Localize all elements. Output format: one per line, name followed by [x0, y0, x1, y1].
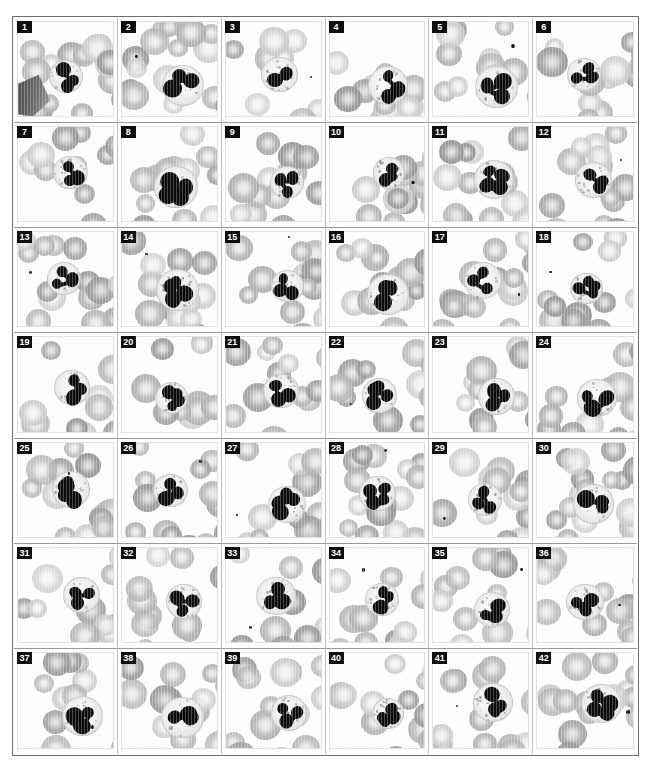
- micrograph-panel[interactable]: 33: [222, 544, 326, 649]
- micrograph-image: [432, 231, 529, 327]
- micrograph-image: [17, 126, 114, 222]
- erythrocyte: [601, 442, 626, 462]
- micrograph-panel[interactable]: 3: [222, 18, 326, 123]
- erythrocyte: [539, 193, 565, 217]
- micrograph-panel[interactable]: 6: [533, 18, 637, 123]
- erythrocyte: [499, 318, 521, 328]
- panel-number-label: 19: [17, 336, 32, 348]
- figure-page: 1234567891011121314151617181920212223242…: [0, 0, 651, 779]
- blood-smear-field: [330, 127, 425, 221]
- cytoplasmic-granule: [480, 710, 481, 711]
- micrograph-panel[interactable]: 42: [533, 649, 637, 754]
- panel-number-label: 30: [536, 442, 551, 454]
- erythrocyte: [472, 547, 498, 571]
- micrograph-panel[interactable]: 16: [326, 228, 430, 333]
- erythrocyte: [132, 215, 155, 222]
- micrograph-panel[interactable]: 29: [429, 439, 533, 544]
- micrograph-panel[interactable]: 9: [222, 123, 326, 228]
- erythrocyte: [136, 194, 155, 212]
- panel-number-label: 5: [432, 21, 447, 33]
- micrograph-panel[interactable]: 11: [429, 123, 533, 228]
- micrograph-panel[interactable]: 5: [429, 18, 533, 123]
- cytoplasmic-granule: [290, 386, 291, 387]
- micrograph-panel[interactable]: 2: [118, 18, 222, 123]
- micrograph-panel[interactable]: 32: [118, 544, 222, 649]
- cytoplasmic-granule: [598, 607, 600, 609]
- micrograph-panel[interactable]: 38: [118, 649, 222, 754]
- micrograph-panel[interactable]: 21: [222, 333, 326, 438]
- erythrocyte: [191, 336, 211, 354]
- micrograph-image: [225, 21, 322, 117]
- micrograph-panel[interactable]: 1: [14, 18, 118, 123]
- cytoplasmic-granule: [187, 615, 189, 617]
- micrograph-panel[interactable]: 37: [14, 649, 118, 754]
- micrograph-panel[interactable]: 12: [533, 123, 637, 228]
- micrograph-panel[interactable]: 30: [533, 439, 637, 544]
- micrograph-panel[interactable]: 28: [326, 439, 430, 544]
- panel-number-label: 37: [17, 652, 32, 664]
- micrograph-image: [17, 652, 114, 749]
- micrograph-panel[interactable]: 25: [14, 439, 118, 544]
- micrograph-panel[interactable]: 26: [118, 439, 222, 544]
- erythrocyte: [541, 218, 573, 223]
- cytoplasmic-granule: [610, 406, 612, 408]
- micrograph-panel[interactable]: 8: [118, 123, 222, 228]
- panel-number-label: 20: [121, 336, 136, 348]
- erythrocyte: [355, 525, 379, 538]
- micrograph-panel[interactable]: 13: [14, 228, 118, 333]
- micrograph-panel[interactable]: 14: [118, 228, 222, 333]
- erythrocyte: [329, 568, 352, 593]
- cytoplasmic-granule: [504, 712, 506, 714]
- erythrocyte: [332, 683, 357, 707]
- panel-number-label: 31: [17, 547, 32, 559]
- blood-smear-field: [226, 337, 321, 431]
- panel-number-label: 12: [536, 126, 551, 138]
- micrograph-panel[interactable]: 36: [533, 544, 637, 649]
- cytoplasmic-granule: [300, 505, 303, 508]
- erythrocyte: [126, 58, 148, 79]
- erythrocyte: [293, 145, 319, 170]
- micrograph-panel[interactable]: 34: [326, 544, 430, 649]
- micrograph-panel[interactable]: 10: [326, 123, 430, 228]
- blood-smear-field: [433, 337, 528, 431]
- cytoplasmic-granule: [394, 184, 397, 187]
- cytoplasmic-granule: [188, 302, 190, 304]
- micrograph-panel[interactable]: 4: [326, 18, 430, 123]
- panel-number-label: 8: [121, 126, 136, 138]
- erythrocyte: [236, 666, 260, 690]
- micrograph-panel[interactable]: 24: [533, 333, 637, 438]
- erythrocyte: [626, 705, 634, 729]
- erythrocyte: [52, 126, 79, 151]
- micrograph-panel[interactable]: 22: [326, 333, 430, 438]
- micrograph-panel[interactable]: 23: [429, 333, 533, 438]
- cytoplasmic-granule: [80, 165, 82, 167]
- micrograph-panel[interactable]: 20: [118, 333, 222, 438]
- cytoplasmic-granule: [276, 60, 279, 63]
- cytoplasmic-granule: [390, 498, 391, 499]
- micrograph-panel[interactable]: 40: [326, 649, 430, 754]
- cytoplasmic-granule: [494, 493, 497, 496]
- erythrocyte: [32, 564, 62, 593]
- erythrocyte: [26, 309, 51, 327]
- micrograph-panel[interactable]: 39: [222, 649, 326, 754]
- micrograph-panel[interactable]: 35: [429, 544, 533, 649]
- micrograph-image: [432, 336, 529, 432]
- erythrocyte: [356, 204, 382, 222]
- micrograph-panel[interactable]: 27: [222, 439, 326, 544]
- erythrocyte: [27, 599, 47, 618]
- micrograph-panel[interactable]: 17: [429, 228, 533, 333]
- micrograph-panel[interactable]: 41: [429, 649, 533, 754]
- blood-smear-field: [537, 548, 633, 642]
- micrograph-panel[interactable]: 18: [533, 228, 637, 333]
- erythrocyte: [170, 547, 194, 569]
- micrograph-panel[interactable]: 7: [14, 123, 118, 228]
- debris-speck: [288, 236, 290, 238]
- micrograph-panel[interactable]: 15: [222, 228, 326, 333]
- blood-smear-field: [433, 232, 528, 326]
- micrograph-panel[interactable]: 19: [14, 333, 118, 438]
- erythrocyte: [483, 238, 508, 262]
- erythrocyte: [214, 519, 218, 538]
- micrograph-image: [536, 547, 634, 643]
- cytoplasmic-granule: [479, 696, 482, 699]
- micrograph-panel[interactable]: 31: [14, 544, 118, 649]
